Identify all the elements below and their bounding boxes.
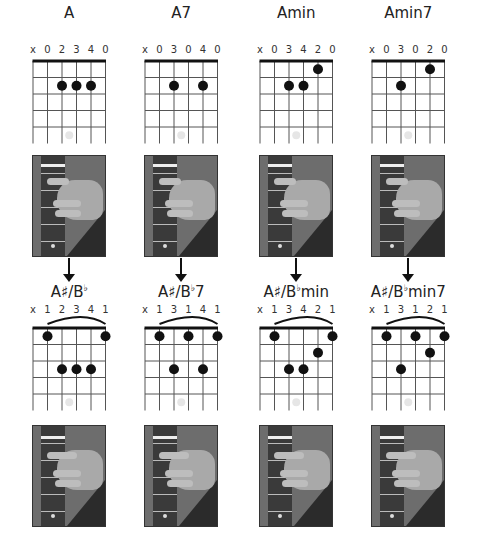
fret-marker: [292, 398, 300, 406]
hand-photo: [259, 155, 333, 257]
barre-arc: [387, 317, 445, 324]
finger-dot: [155, 331, 165, 341]
finger-dot: [57, 364, 67, 374]
finger-dot: [382, 331, 392, 341]
finger-dot: [169, 364, 179, 374]
chord-name: A♯/B♭: [9, 283, 129, 301]
fret-marker: [65, 398, 73, 406]
down-arrow-icon: [407, 258, 409, 276]
chord-diagram: [135, 41, 255, 151]
finger-dot: [184, 331, 194, 341]
chord-diagram: [250, 308, 370, 418]
down-arrow-icon: [180, 258, 182, 276]
chord-diagram: [23, 41, 143, 151]
finger-dot: [86, 364, 96, 374]
hand-photo: [259, 425, 333, 527]
finger-dot: [101, 331, 111, 341]
chord-diagram: [362, 308, 482, 418]
hand-photo: [371, 155, 445, 257]
finger-dot: [425, 64, 435, 74]
chord-name: Amin: [236, 4, 356, 22]
chord-name: A♯/B♭min: [236, 283, 356, 301]
finger-dot: [328, 331, 338, 341]
finger-dot: [57, 81, 67, 91]
finger-dot: [72, 81, 82, 91]
fret-marker: [65, 131, 73, 139]
finger-dot: [43, 331, 53, 341]
finger-dot: [86, 81, 96, 91]
finger-dot: [270, 331, 280, 341]
chord-diagram: [250, 41, 370, 151]
hand-photo: [32, 425, 106, 527]
chord-name: A♯/B♭min7: [348, 283, 468, 301]
chord-name: A7: [121, 4, 241, 22]
finger-dot: [299, 364, 309, 374]
barre-arc: [160, 317, 218, 324]
finger-dot: [198, 364, 208, 374]
hand-photo: [32, 155, 106, 257]
down-arrow-icon: [68, 258, 70, 276]
hand-photo: [144, 155, 218, 257]
chord-diagram: [362, 41, 482, 151]
finger-dot: [299, 81, 309, 91]
chord-name: A: [9, 4, 129, 22]
fret-marker: [177, 398, 185, 406]
finger-dot: [169, 81, 179, 91]
chord-diagram: [135, 308, 255, 418]
finger-dot: [313, 348, 323, 358]
finger-dot: [396, 81, 406, 91]
hand-photo: [144, 425, 218, 527]
fret-marker: [292, 131, 300, 139]
barre-arc: [275, 317, 333, 324]
finger-dot: [72, 364, 82, 374]
barre-arc: [48, 317, 106, 324]
chord-diagram: [23, 308, 143, 418]
hand-photo: [371, 425, 445, 527]
finger-dot: [425, 348, 435, 358]
finger-dot: [411, 331, 421, 341]
chord-name: Amin7: [348, 4, 468, 22]
finger-dot: [213, 331, 223, 341]
fret-marker: [404, 131, 412, 139]
finger-dot: [396, 364, 406, 374]
finger-dot: [313, 64, 323, 74]
fret-marker: [177, 131, 185, 139]
chord-name: A♯/B♭7: [121, 283, 241, 301]
fret-marker: [404, 398, 412, 406]
finger-dot: [284, 81, 294, 91]
finger-dot: [198, 81, 208, 91]
down-arrow-icon: [295, 258, 297, 276]
finger-dot: [284, 364, 294, 374]
finger-dot: [440, 331, 450, 341]
